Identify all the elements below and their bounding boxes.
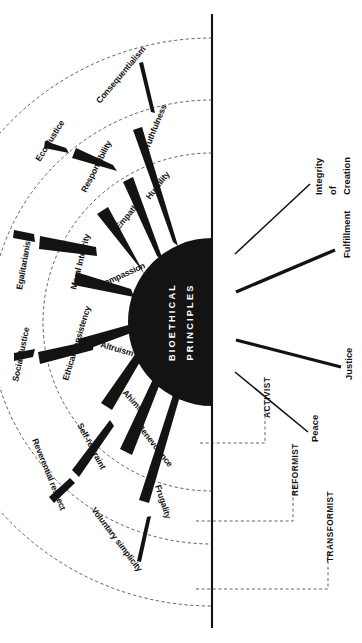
label-transformist: TRANSFORMIST bbox=[326, 491, 335, 562]
label-fulfillment: Fulfillment bbox=[341, 211, 352, 258]
label-activist: ACTIVIST bbox=[263, 377, 272, 418]
diagram-canvas: BIOETHICAL PRINCIPLES bbox=[0, 0, 362, 643]
label-peace: Peace bbox=[309, 415, 320, 442]
hub-label-line-2: PRINCIPLES bbox=[185, 283, 195, 360]
label-integrity-line1: Integrity bbox=[313, 157, 324, 195]
hub-label-group: BIOETHICAL bbox=[167, 283, 177, 361]
label-integrity-line2: of bbox=[327, 185, 338, 195]
hub-label-group-2: PRINCIPLES bbox=[185, 283, 195, 360]
hub-label-line-1: BIOETHICAL bbox=[167, 283, 177, 361]
label-integrity-line3: Creation bbox=[341, 157, 352, 195]
label-justice: Justice bbox=[343, 348, 354, 380]
bioethical-principles-radial-diagram: BIOETHICAL PRINCIPLES bbox=[0, 0, 362, 643]
label-reformist: REFORMIST bbox=[291, 443, 300, 496]
